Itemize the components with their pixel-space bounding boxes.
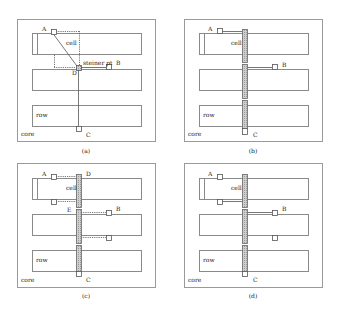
- label-c: C: [253, 276, 258, 283]
- feedthrough-bar-1: [77, 175, 82, 208]
- row-2: [33, 70, 142, 91]
- panel-a: Acellsteiner ptBDrowcoreC: [18, 20, 156, 142]
- row-2: [200, 215, 309, 236]
- label-e: E: [67, 206, 71, 213]
- row-3: [33, 106, 142, 127]
- label-row: row: [203, 111, 215, 118]
- panels-group: Acellsteiner ptBDrowcoreCAcellBrowcoreCA…: [18, 20, 323, 288]
- pin-a: [218, 175, 223, 180]
- label-c: C: [253, 131, 258, 138]
- label-b: B: [116, 205, 121, 212]
- panel-caption: (a): [82, 147, 90, 154]
- row-3: [200, 251, 309, 272]
- row-3: [200, 106, 309, 127]
- label-core: core: [21, 276, 35, 283]
- label-row: row: [36, 111, 48, 118]
- label-c: C: [86, 131, 91, 138]
- label-a: A: [41, 170, 47, 177]
- label-core: core: [188, 130, 202, 137]
- row-1: [33, 179, 142, 200]
- routing-diagram: Acellsteiner ptBDrowcoreCAcellBrowcoreCA…: [0, 0, 340, 311]
- pin-b2: [273, 236, 278, 241]
- pin-a: [52, 175, 57, 180]
- pin-b: [273, 211, 278, 216]
- panel-caption: (c): [82, 292, 90, 299]
- row-3: [33, 251, 142, 272]
- feedthrough-bar-3: [77, 246, 82, 272]
- feedthrough-bar-3: [243, 246, 248, 272]
- pin-b: [273, 65, 278, 70]
- label-a: A: [41, 25, 47, 32]
- label-core: core: [21, 130, 35, 137]
- row-1: [33, 34, 142, 55]
- pin-c: [77, 272, 82, 277]
- feedthrough-bar-3: [243, 101, 248, 129]
- label-cell: cell: [231, 39, 242, 46]
- label-d: D: [86, 170, 91, 177]
- pin-c: [243, 129, 248, 135]
- pin-c: [77, 127, 82, 132]
- panel-caption: (d): [249, 292, 258, 299]
- feedthrough-bar-1: [243, 30, 248, 63]
- row-1: [200, 179, 309, 200]
- label-cell: cell: [231, 184, 242, 191]
- label-core: core: [188, 276, 202, 283]
- pin-a: [52, 30, 57, 35]
- pin-b: [107, 211, 112, 216]
- steiner-point: [77, 66, 82, 71]
- label-row: row: [36, 256, 48, 263]
- label-b: B: [282, 205, 287, 212]
- feedthrough-bar-2: [243, 65, 248, 99]
- row-2: [33, 215, 142, 236]
- pin-a: [218, 29, 223, 34]
- label-steiner-pt: steiner pt: [83, 59, 113, 67]
- label-b: B: [282, 61, 287, 68]
- pin-a2: [52, 200, 57, 205]
- feedthrough-bar-1: [243, 175, 248, 208]
- panel-c: ADcellEBrowcoreC: [18, 164, 156, 288]
- label-a: A: [207, 170, 213, 177]
- label-cell: cell: [66, 184, 77, 191]
- feedthrough-bar-2: [77, 210, 82, 244]
- label-b: B: [116, 59, 121, 66]
- panel-b: AcellBrowcoreC: [185, 20, 323, 142]
- label-a: A: [207, 25, 213, 32]
- pin-a2: [218, 200, 223, 205]
- label-row: row: [203, 256, 215, 263]
- panel-d: AcellBrowcoreC: [185, 164, 323, 288]
- pin-b2: [107, 236, 112, 241]
- panel-caption: (b): [249, 147, 258, 154]
- label-cell: cell: [66, 39, 77, 46]
- row-1: [200, 34, 309, 55]
- feedthrough-bar-2: [243, 210, 248, 244]
- label-d: D: [72, 69, 77, 76]
- row-2: [200, 70, 309, 91]
- diagram-stage: Acellsteiner ptBDrowcoreCAcellBrowcoreCA…: [0, 0, 340, 311]
- label-c: C: [86, 276, 91, 283]
- pin-c: [243, 272, 248, 277]
